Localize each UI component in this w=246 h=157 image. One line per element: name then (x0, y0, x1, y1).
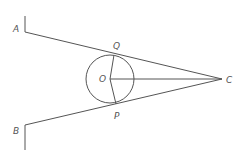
line-b-c-through-p (25, 79, 222, 125)
label-c: C (226, 75, 233, 85)
radius-oq (110, 55, 114, 79)
line-a-c-through-q (25, 32, 222, 79)
geometry-diagram: A B C O Q P (0, 0, 246, 157)
label-q: Q (113, 41, 120, 51)
label-o: O (99, 74, 106, 84)
label-a: A (12, 24, 19, 34)
label-p: P (114, 111, 120, 121)
radius-op (110, 79, 116, 104)
label-b: B (13, 126, 19, 136)
